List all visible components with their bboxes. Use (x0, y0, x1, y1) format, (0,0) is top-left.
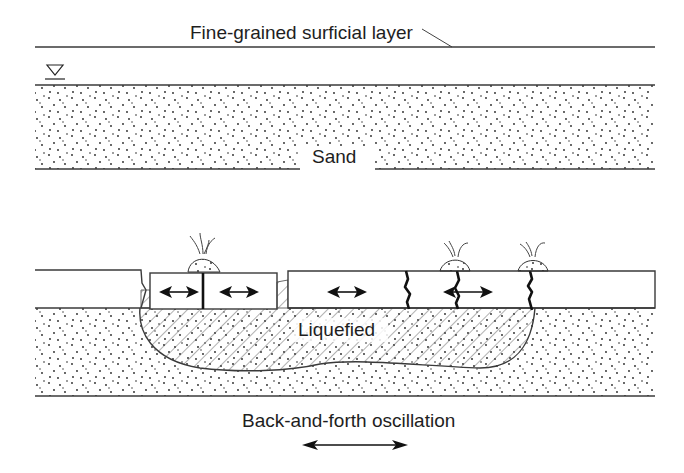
label-leader-line (422, 29, 452, 47)
displaced-block-2 (288, 271, 655, 308)
water-table-icon (45, 65, 65, 79)
left-intact-block-edge (35, 270, 146, 308)
sand-boil-2 (440, 241, 470, 271)
liquefaction-diagram: Fine-grained surficial layer Sand Liquef… (0, 0, 684, 473)
double-arrow-icon (302, 440, 408, 450)
upper-panel: Fine-grained surficial layer Sand (35, 22, 655, 170)
sand-boil-1 (188, 233, 220, 272)
sand-label: Sand (312, 146, 356, 167)
oscillation-caption: Back-and-forth oscillation (242, 410, 455, 431)
liquefied-label: Liquefied (298, 319, 375, 340)
sand-boil-3 (518, 242, 548, 271)
lower-panel: Liquefied (35, 233, 655, 396)
surficial-layer-label: Fine-grained surficial layer (190, 22, 413, 43)
caption-group: Back-and-forth oscillation (242, 410, 455, 450)
